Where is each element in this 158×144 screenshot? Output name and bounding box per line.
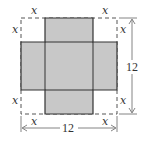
cross-net — [21, 18, 117, 114]
label-top-right-horizontal: x — [102, 4, 109, 17]
label-top-left-horizontal: x — [31, 4, 38, 17]
label-bottom-left-vertical: x — [12, 94, 19, 107]
box-net-diagram: x x x x x x x x 12 12 — [0, 0, 158, 144]
height-dimension-label: 12 — [126, 60, 138, 74]
label-bottom-right-horizontal: x — [102, 115, 109, 128]
width-dimension-label: 12 — [62, 121, 74, 135]
label-top-right-vertical: x — [120, 23, 127, 36]
label-bottom-right-vertical: x — [120, 94, 127, 107]
label-bottom-left-horizontal: x — [31, 115, 38, 128]
label-top-left-vertical: x — [12, 23, 19, 36]
